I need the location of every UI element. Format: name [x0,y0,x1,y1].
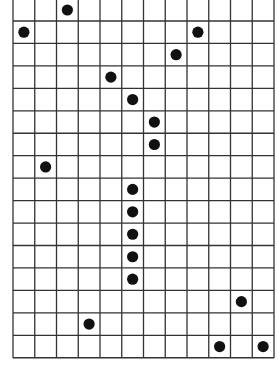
dot-piece[interactable] [127,274,138,285]
grid-cell[interactable] [165,0,187,21]
dot-piece[interactable] [149,139,160,150]
grid-cell[interactable] [78,0,100,21]
dot-piece[interactable] [105,72,116,83]
grid-cell[interactable] [231,268,253,290]
grid-cell[interactable] [252,43,274,65]
grid-cell[interactable] [100,335,122,357]
grid-cell[interactable] [231,133,253,155]
grid-cell[interactable] [78,66,100,88]
grid-cell[interactable] [13,223,35,245]
grid-cell[interactable] [144,66,166,88]
grid-cell[interactable] [57,111,79,133]
grid-cell[interactable] [78,335,100,357]
grid-cell[interactable] [78,290,100,312]
grid-cell[interactable] [35,178,57,200]
grid-cell[interactable] [35,290,57,312]
grid-cell[interactable] [252,313,274,335]
grid-cell[interactable] [13,88,35,110]
grid-cell[interactable] [187,201,209,223]
dot-piece[interactable] [258,341,269,352]
grid-cell[interactable] [187,111,209,133]
dot-piece[interactable] [127,184,138,195]
grid-cell[interactable] [165,201,187,223]
grid-cell[interactable] [187,246,209,268]
grid-cell[interactable] [187,313,209,335]
grid-cell[interactable] [13,313,35,335]
grid-cell[interactable] [209,201,231,223]
grid-cell[interactable] [144,88,166,110]
grid-cell[interactable] [209,223,231,245]
grid-cell[interactable] [57,21,79,43]
grid-cell[interactable] [187,88,209,110]
grid-cell[interactable] [57,290,79,312]
grid-cell[interactable] [78,111,100,133]
grid-cell[interactable] [35,201,57,223]
grid-cell[interactable] [252,66,274,88]
grid-cell[interactable] [35,223,57,245]
dot-piece[interactable] [40,161,51,172]
dot-piece[interactable] [236,296,247,307]
grid-cell[interactable] [100,21,122,43]
grid-cell[interactable] [252,21,274,43]
grid-cell[interactable] [209,268,231,290]
grid-cell[interactable] [13,335,35,357]
grid-cell[interactable] [231,111,253,133]
dot-piece[interactable] [149,116,160,127]
grid-cell[interactable] [122,156,144,178]
grid-cell[interactable] [13,43,35,65]
grid-cell[interactable] [187,0,209,21]
grid-cell[interactable] [144,43,166,65]
grid-cell[interactable] [165,66,187,88]
grid-cell[interactable] [209,66,231,88]
grid-cell[interactable] [209,111,231,133]
grid-cell[interactable] [165,21,187,43]
grid-cell[interactable] [231,246,253,268]
grid-cell[interactable] [165,133,187,155]
grid-cell[interactable] [35,43,57,65]
grid-cell[interactable] [144,223,166,245]
dot-piece[interactable] [214,341,225,352]
grid-cell[interactable] [122,0,144,21]
grid-cell[interactable] [57,201,79,223]
dot-piece[interactable] [192,27,203,38]
grid-cell[interactable] [209,178,231,200]
grid-cell[interactable] [122,313,144,335]
grid-cell[interactable] [252,290,274,312]
grid-cell[interactable] [144,21,166,43]
grid-cell[interactable] [187,268,209,290]
dot-piece[interactable] [127,206,138,217]
grid-cell[interactable] [100,178,122,200]
grid-cell[interactable] [144,156,166,178]
grid-cell[interactable] [231,43,253,65]
grid-cell[interactable] [165,223,187,245]
grid-cell[interactable] [252,246,274,268]
grid-cell[interactable] [165,111,187,133]
grid-cell[interactable] [231,0,253,21]
grid-cell[interactable] [252,111,274,133]
grid-cell[interactable] [122,133,144,155]
grid-cell[interactable] [209,88,231,110]
grid-cell[interactable] [165,268,187,290]
grid-cell[interactable] [144,268,166,290]
grid-cell[interactable] [252,223,274,245]
grid-cell[interactable] [122,290,144,312]
grid-cell[interactable] [231,335,253,357]
grid-cell[interactable] [187,178,209,200]
grid-cell[interactable] [100,43,122,65]
grid-cell[interactable] [187,335,209,357]
grid-cell[interactable] [122,335,144,357]
grid-cell[interactable] [231,223,253,245]
grid-cell[interactable] [57,313,79,335]
grid-cell[interactable] [57,66,79,88]
grid-cell[interactable] [100,313,122,335]
grid-cell[interactable] [57,246,79,268]
grid-cell[interactable] [231,313,253,335]
grid-cell[interactable] [122,21,144,43]
grid-cell[interactable] [231,156,253,178]
grid-cell[interactable] [187,133,209,155]
grid-cell[interactable] [35,268,57,290]
grid-cell[interactable] [100,156,122,178]
grid-cell[interactable] [35,88,57,110]
grid-cell[interactable] [122,43,144,65]
dot-piece[interactable] [127,251,138,262]
